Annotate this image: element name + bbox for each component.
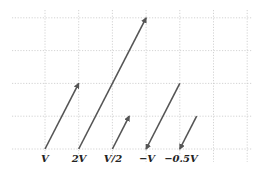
- vector-diagram: V2VV/2−V−0.5V: [0, 0, 258, 180]
- vector-arrow: [180, 116, 197, 149]
- vector-labels: V2VV/2−V−0.5V: [41, 153, 199, 164]
- vector-label: V/2: [104, 153, 122, 164]
- vectors: [45, 18, 197, 149]
- vector-label: 2V: [71, 153, 88, 164]
- vector-label: −V: [139, 153, 156, 164]
- vector-label: V: [41, 153, 50, 164]
- grid: [12, 10, 258, 162]
- vector-label: −0.5V: [164, 153, 199, 164]
- vector-arrow: [112, 116, 129, 149]
